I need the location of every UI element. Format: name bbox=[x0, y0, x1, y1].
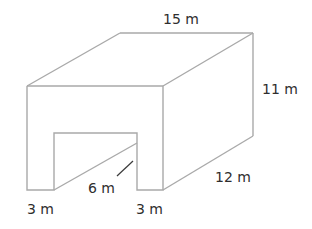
tunnel-height-leader bbox=[117, 161, 133, 176]
label-height: 11 m bbox=[262, 81, 298, 97]
label-right-wall: 3 m bbox=[136, 201, 163, 217]
label-depth: 12 m bbox=[215, 169, 251, 185]
label-length-top: 15 m bbox=[163, 11, 199, 27]
top-right-receding-edge bbox=[163, 33, 253, 86]
top-left-receding-edge bbox=[27, 33, 120, 86]
front-face-outline bbox=[27, 86, 163, 190]
label-tunnel-height: 6 m bbox=[88, 180, 115, 196]
prism-diagram: 15 m 11 m 12 m 6 m 3 m 3 m bbox=[0, 0, 312, 229]
label-left-wall: 3 m bbox=[27, 201, 54, 217]
